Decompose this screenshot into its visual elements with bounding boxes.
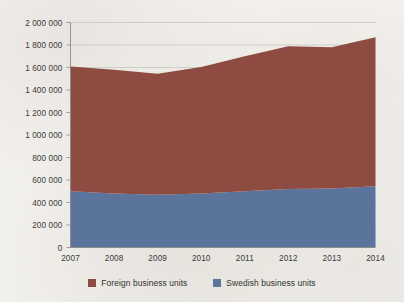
y-axis-tick-label: 1 000 000 <box>0 131 63 140</box>
y-axis-tick-label: 1 600 000 <box>0 63 63 72</box>
y-axis-tick-marks <box>67 23 71 248</box>
y-axis-tick-label: 200 000 <box>0 221 63 230</box>
legend-label-foreign: Foreign business units <box>101 278 187 288</box>
x-axis-tick-label: 2010 <box>192 254 211 263</box>
x-axis-tick-label: 2007 <box>61 254 80 263</box>
x-axis-tick-label: 2013 <box>323 254 342 263</box>
x-axis-tick-label: 2011 <box>236 254 254 263</box>
legend-label-swedish: Swedish business units <box>226 278 315 288</box>
y-axis-tick-label: 1 800 000 <box>0 41 63 50</box>
legend-swatch-swedish-icon <box>213 279 221 287</box>
y-axis-tick-label: 600 000 <box>0 176 63 185</box>
y-axis-tick-label: 2 000 000 <box>0 18 63 27</box>
x-axis-tick-label: 2008 <box>105 254 124 263</box>
x-axis-tick-label: 2014 <box>366 254 385 263</box>
y-axis-tick-label: 0 <box>0 243 63 252</box>
y-axis-tick-label: 1 200 000 <box>0 108 63 117</box>
y-axis-tick-label: 1 400 000 <box>0 86 63 95</box>
legend-item-foreign-business-units[interactable]: Foreign business units <box>88 278 187 288</box>
stacked-area-chart: 0200 000400 000600 000800 0001 000 0001 … <box>0 0 404 302</box>
chart-legend: Foreign business units Swedish business … <box>0 278 404 288</box>
y-axis-tick-label: 400 000 <box>0 198 63 207</box>
area-series-foreign-business-units <box>71 37 376 195</box>
x-axis-tick-label: 2009 <box>148 254 167 263</box>
y-axis-tick-label: 800 000 <box>0 153 63 162</box>
x-axis-tick-label: 2012 <box>279 254 298 263</box>
area-series-swedish-business-units <box>71 186 376 247</box>
legend-item-swedish-business-units[interactable]: Swedish business units <box>213 278 315 288</box>
legend-swatch-foreign-icon <box>88 279 96 287</box>
